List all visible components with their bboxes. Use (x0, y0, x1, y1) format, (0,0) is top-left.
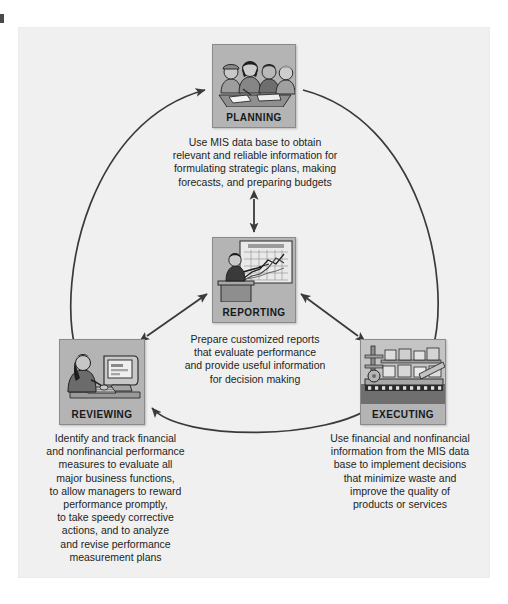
node-planning[interactable]: Planning (212, 44, 296, 128)
arc-executing-to-reviewing (152, 405, 374, 432)
arrow-reviewing-reporting (147, 294, 207, 336)
figure-page: Planning (0, 0, 508, 604)
node-reviewing-label: Reviewing (60, 407, 144, 424)
caption-executing: Use financial and nonfinancial informati… (305, 432, 495, 511)
meeting-people-icon (213, 45, 295, 110)
node-reporting[interactable]: Reporting (212, 237, 296, 323)
arrow-executing-reporting (301, 294, 358, 336)
arc-planning-to-executing (303, 90, 438, 352)
node-executing-label: Executing (361, 407, 445, 424)
node-reporting-label: Reporting (213, 305, 295, 322)
caption-planning: Use MIS data base to obtain relevant and… (130, 136, 380, 189)
node-planning-label: Planning (213, 110, 295, 127)
presenter-podium-chart-icon (213, 238, 295, 305)
caption-reporting: Prepare customized reports that evaluate… (160, 333, 350, 386)
arc-reviewing-to-planning (71, 90, 205, 352)
person-at-computer-icon (60, 340, 144, 407)
caption-reviewing: Identify and track financial and nonfina… (18, 432, 213, 564)
node-executing[interactable]: Executing (360, 339, 446, 425)
node-reviewing[interactable]: Reviewing (59, 339, 145, 425)
factory-conveyor-icon (361, 340, 445, 407)
